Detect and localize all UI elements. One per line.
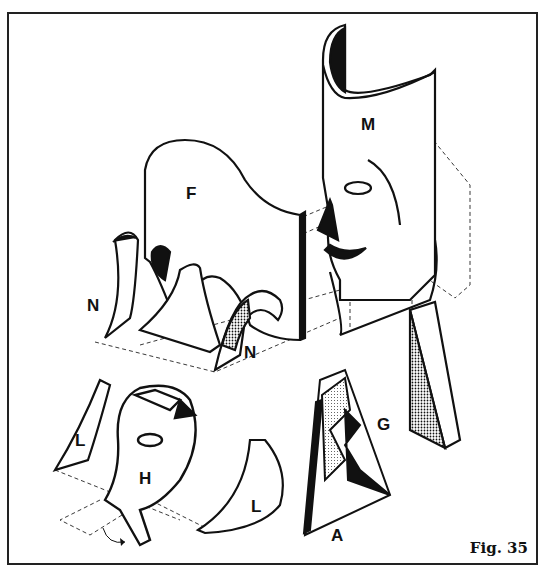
piece-a xyxy=(304,370,390,535)
figure-caption: Fig. 35 xyxy=(470,539,528,557)
label-n-left: N xyxy=(87,297,99,314)
piece-l-right xyxy=(198,440,283,533)
illustration xyxy=(0,0,546,573)
piece-n-left xyxy=(105,233,138,339)
label-g: G xyxy=(377,416,390,433)
piece-g xyxy=(410,302,460,448)
label-a: A xyxy=(331,527,343,544)
label-m: M xyxy=(361,116,375,133)
label-f: F xyxy=(186,185,196,202)
label-h: H xyxy=(139,470,151,487)
label-n-right: N xyxy=(244,344,256,361)
label-l-right: L xyxy=(251,498,261,515)
piece-l-left xyxy=(55,380,110,470)
piece-h xyxy=(105,386,196,545)
label-l-left: L xyxy=(75,432,85,449)
piece-m xyxy=(318,25,437,335)
